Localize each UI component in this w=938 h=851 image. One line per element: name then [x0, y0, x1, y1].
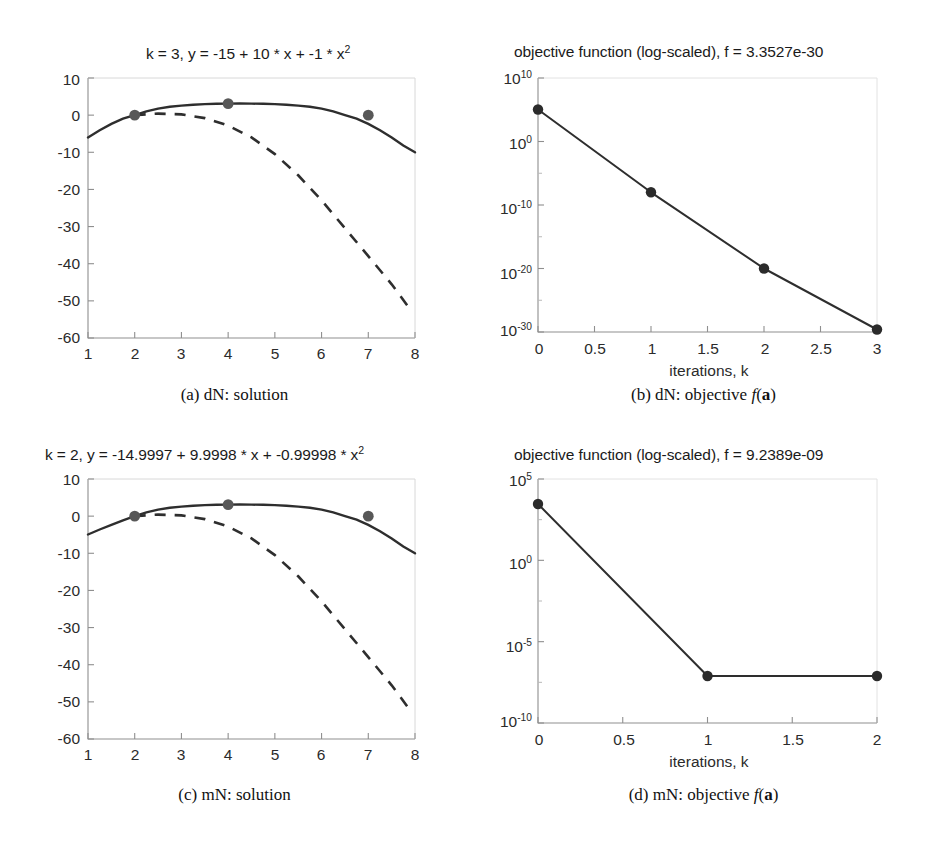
panel-d-xtick-marks: [538, 717, 877, 723]
panel-a-dashed-curve: [135, 114, 412, 312]
panel-b-data-markers: [533, 104, 882, 334]
panel-a: k = 3, y = -15 + 10 * x + -1 * x2 10 0 -…: [0, 0, 469, 426]
panel-d-marker-2: [872, 671, 882, 681]
figure-root: k = 3, y = -15 + 10 * x + -1 * x2 10 0 -…: [0, 0, 938, 851]
panel-c: k = 2, y = -14.9997 + 9.9998 * x + -0.99…: [0, 426, 469, 851]
panel-a-xtick-marks: [88, 332, 415, 338]
panel-d-marker-1: [702, 671, 712, 681]
panel-d-objective-line: [538, 504, 877, 676]
panel-b-ytick-marks: [538, 78, 544, 332]
panel-a-marker-2: [223, 98, 234, 109]
panel-b-plot: [469, 0, 938, 426]
panel-a-svg: [0, 0, 469, 426]
panel-a-ytick-marks: [88, 78, 94, 338]
panel-c-xtick-marks: [88, 733, 415, 739]
panel-d-caption-f: f: [754, 785, 759, 804]
panel-b: objective function (log-scaled), f = 3.3…: [469, 0, 938, 426]
panel-d: objective function (log-scaled), f = 9.2…: [469, 426, 938, 851]
panel-d-axis-box: [538, 479, 877, 723]
panel-a-plot: [0, 0, 469, 426]
panel-b-marker-0: [533, 104, 543, 114]
panel-c-ytick-marks: [88, 479, 94, 739]
panel-a-data-markers: [129, 98, 373, 120]
panel-d-caption-a: a: [764, 785, 773, 804]
panel-d-ytick-minor: [538, 520, 542, 683]
panel-a-marker-3: [363, 110, 374, 121]
panel-c-caption: (c) mN: solution: [0, 785, 469, 805]
panel-a-marker-1: [129, 110, 140, 121]
panel-b-caption: (b) dN: objective f(a): [469, 385, 938, 405]
panel-d-data-markers: [533, 499, 882, 681]
panel-b-caption-a: a: [762, 385, 771, 404]
panel-b-objective-line: [538, 110, 877, 330]
panel-c-marker-3: [363, 511, 374, 522]
panel-c-dashed-curve: [135, 515, 412, 713]
panel-b-axis-box: [538, 78, 877, 332]
panel-c-data-markers: [129, 499, 373, 521]
panel-b-marker-3: [872, 324, 882, 334]
panel-a-caption: (a) dN: solution: [0, 385, 469, 405]
panel-b-xtick-marks: [538, 326, 877, 332]
panel-b-svg: [469, 0, 938, 426]
panel-c-marker-1: [129, 511, 140, 522]
panel-d-caption: (d) mN: objective f(a): [469, 785, 938, 805]
panel-d-marker-0: [533, 499, 543, 509]
panel-b-marker-1: [646, 187, 656, 197]
panel-b-caption-f: f: [751, 385, 756, 404]
panel-c-marker-2: [223, 499, 234, 510]
panel-b-marker-2: [759, 263, 769, 273]
